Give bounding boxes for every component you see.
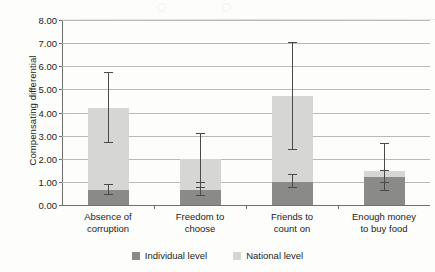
y-axis-tick-label: 8.00 xyxy=(39,15,58,26)
legend-swatch xyxy=(132,252,140,260)
error-bar-cap-upper xyxy=(104,72,113,73)
x-axis-label-line: choose xyxy=(154,223,246,235)
x-axis-label: Freedom tochoose xyxy=(154,211,246,235)
x-axis-label-line: Friends to xyxy=(246,211,338,223)
y-axis-tick-label: 5.00 xyxy=(39,84,58,95)
error-bar-cap-lower xyxy=(196,195,205,196)
y-axis-tick-mark xyxy=(59,43,62,44)
error-bar-cap-lower xyxy=(380,182,389,183)
gridline xyxy=(62,66,430,67)
y-axis-tick-mark xyxy=(59,182,62,183)
error-bar-cap-lower xyxy=(288,149,297,150)
scan-artifact-dot xyxy=(222,3,231,12)
error-bar-individual xyxy=(292,175,293,188)
error-bar-cap-upper xyxy=(288,174,297,175)
legend-label: Individual level xyxy=(145,250,207,261)
chart-figure: Compensating differential 0.001.002.003.… xyxy=(0,0,435,272)
legend-item: Individual level xyxy=(132,250,207,261)
x-axis-label: Absence ofcorruption xyxy=(62,211,154,235)
chart-legend: Individual levelNational level xyxy=(0,250,435,261)
y-axis-tick-mark xyxy=(59,159,62,160)
error-bar-cap-upper xyxy=(380,170,389,171)
x-axis-label-line: to buy food xyxy=(338,223,430,235)
error-bar-national xyxy=(200,134,201,187)
legend-item: National level xyxy=(233,250,303,261)
y-axis-tick-mark xyxy=(59,89,62,90)
error-bar-cap-lower xyxy=(380,190,389,191)
error-bar-cap-lower xyxy=(288,187,297,188)
x-axis-label: Friends tocount on xyxy=(246,211,338,235)
y-axis-tick-label: 1.00 xyxy=(39,176,58,187)
gridline xyxy=(62,20,430,21)
y-axis-tick-label: 7.00 xyxy=(39,38,58,49)
legend-swatch xyxy=(233,252,241,260)
x-axis-label-line: Enough money xyxy=(338,211,430,223)
y-axis-tick-label: 4.00 xyxy=(39,107,58,118)
error-bar-cap-upper xyxy=(196,182,205,183)
x-axis-tick-mark xyxy=(246,205,247,209)
y-axis-tick-label: 0.00 xyxy=(39,200,58,211)
plot-area: 0.001.002.003.004.005.006.007.008.00 xyxy=(62,20,430,205)
scan-artifact-dot xyxy=(157,3,166,12)
x-axis-label-line: count on xyxy=(246,223,338,235)
y-axis-tick-mark xyxy=(59,20,62,21)
error-bar-cap-upper xyxy=(288,42,297,43)
error-bar-cap-upper xyxy=(104,184,113,185)
error-bar-national xyxy=(292,43,293,149)
error-bar-cap-lower xyxy=(104,194,113,195)
y-axis-tick-mark xyxy=(59,136,62,137)
y-axis-tick-mark xyxy=(59,113,62,114)
gridline xyxy=(62,89,430,90)
y-axis-tick-mark xyxy=(59,205,62,206)
x-axis-label: Enough moneyto buy food xyxy=(338,211,430,235)
x-axis-label-line: corruption xyxy=(62,223,154,235)
y-axis-tick-label: 2.00 xyxy=(39,153,58,164)
error-bar-cap-lower xyxy=(104,142,113,143)
error-bar-cap-upper xyxy=(380,143,389,144)
x-axis-label-line: Freedom to xyxy=(154,211,246,223)
error-bar-national xyxy=(384,144,385,191)
error-bar-cap-upper xyxy=(196,133,205,134)
x-axis-tick-mark xyxy=(338,205,339,209)
legend-label: National level xyxy=(246,250,303,261)
gridline xyxy=(62,43,430,44)
x-axis-label-line: Absence of xyxy=(62,211,154,223)
y-axis-tick-mark xyxy=(59,66,62,67)
y-axis-title: Compensating differential xyxy=(27,21,38,201)
x-axis-tick-mark xyxy=(154,205,155,209)
y-axis-tick-label: 6.00 xyxy=(39,61,58,72)
error-bar-national xyxy=(108,73,109,142)
y-axis-tick-label: 3.00 xyxy=(39,130,58,141)
